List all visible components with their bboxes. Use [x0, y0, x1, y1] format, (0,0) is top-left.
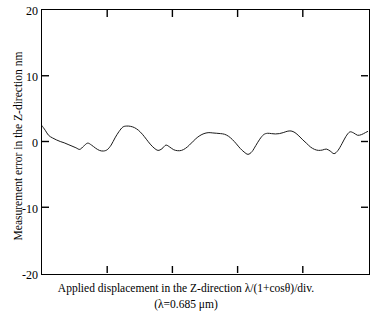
y-tick-label-0: 0: [8, 137, 38, 149]
y-axis-tick-labels: 20 10 0 -10 -20: [6, 0, 38, 321]
data-series-line: [42, 126, 368, 155]
plot-area: [41, 9, 370, 275]
y-tick-label-10: 10: [8, 71, 38, 83]
chart-figure: Measurement error in the Z-direction nm …: [0, 0, 372, 321]
axis-ticks: [42, 10, 368, 273]
y-tick-label-20: 20: [8, 5, 38, 17]
x-axis-title-line2: (λ=0.685 μm): [0, 296, 372, 312]
x-axis-title: Applied displacement in the Z-direction …: [0, 280, 372, 312]
plot-canvas: [42, 10, 368, 273]
y-tick-label-neg10: -10: [8, 203, 38, 215]
x-axis-title-line1: Applied displacement in the Z-direction …: [58, 282, 314, 294]
